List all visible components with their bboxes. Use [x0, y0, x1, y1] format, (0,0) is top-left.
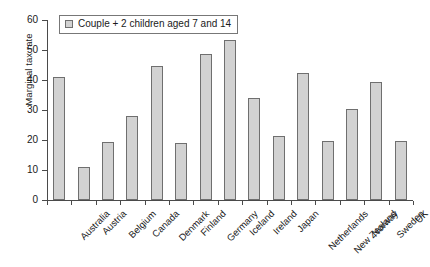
bar — [297, 73, 309, 200]
bar-slot — [340, 20, 364, 200]
x-tick — [340, 201, 341, 205]
bar-slot — [47, 20, 71, 200]
legend-label: Couple + 2 children aged 7 and 14 — [78, 18, 231, 30]
x-tick — [71, 201, 72, 205]
x-tick — [218, 201, 219, 205]
x-tick — [267, 201, 268, 205]
x-tick — [364, 201, 365, 205]
bar-slot — [389, 20, 413, 200]
bar — [395, 141, 407, 200]
bar — [322, 141, 334, 200]
bar — [78, 167, 90, 200]
bar-slot — [242, 20, 266, 200]
x-tick — [291, 201, 292, 205]
x-axis-line — [47, 200, 413, 201]
x-tick — [96, 201, 97, 205]
bar-slot — [96, 20, 120, 200]
x-axis-label: Japan — [294, 208, 320, 234]
bar-slot — [169, 20, 193, 200]
bar — [175, 143, 187, 200]
x-tick — [47, 201, 48, 205]
bar — [224, 40, 236, 200]
bar — [200, 54, 212, 200]
bar-slot — [218, 20, 242, 200]
bar-slot — [145, 20, 169, 200]
bar — [151, 66, 163, 200]
x-tick — [389, 201, 390, 205]
bar — [346, 109, 358, 200]
bar — [273, 136, 285, 200]
x-tick — [120, 201, 121, 205]
bar-slot — [315, 20, 339, 200]
bar-slot — [120, 20, 144, 200]
bar — [102, 142, 114, 201]
x-tick — [145, 201, 146, 205]
x-tick — [193, 201, 194, 205]
y-tick-label: 40 — [27, 73, 38, 86]
y-tick-label: 50 — [27, 43, 38, 56]
y-tick-label: 60 — [27, 13, 38, 26]
bar-slot — [193, 20, 217, 200]
x-tick — [315, 201, 316, 205]
y-tick-label: 20 — [27, 133, 38, 146]
bar-slot — [267, 20, 291, 200]
legend-swatch-couple-2-children — [65, 20, 73, 28]
bar-slot — [364, 20, 388, 200]
x-tick — [169, 201, 170, 205]
x-tick — [242, 201, 243, 205]
bar-slot — [71, 20, 95, 200]
y-tick-label: 0 — [32, 193, 38, 206]
y-tick-label: 30 — [27, 103, 38, 116]
bar — [53, 77, 65, 200]
x-tick — [413, 201, 414, 205]
y-tick-label: 10 — [27, 163, 38, 176]
bar — [126, 116, 138, 200]
bar — [248, 98, 260, 200]
legend: Couple + 2 children aged 7 and 14 — [59, 15, 238, 34]
bars-layer — [47, 20, 413, 200]
plot-area: 0102030405060 AustraliaAustriaBelgiumCan… — [47, 20, 413, 200]
x-axis-label: Ireland — [271, 208, 299, 236]
bar-slot — [291, 20, 315, 200]
bar — [370, 82, 382, 200]
